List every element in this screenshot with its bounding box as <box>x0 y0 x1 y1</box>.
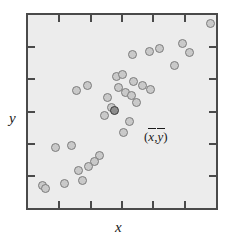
tick-bottom-4 <box>152 201 154 208</box>
plot-area: (x,y) <box>26 13 218 210</box>
centroid-y-bar: y <box>157 130 163 143</box>
data-point <box>83 81 92 90</box>
data-point <box>60 179 69 188</box>
data-point <box>185 48 194 57</box>
x-axis-label: x <box>115 219 122 236</box>
data-point <box>145 47 154 56</box>
data-point <box>41 184 50 193</box>
tick-bottom-1 <box>58 201 60 208</box>
centroid-point <box>110 106 119 115</box>
data-point <box>170 61 179 70</box>
y-axis-label: y <box>9 110 16 127</box>
tick-right-3 <box>209 111 216 113</box>
tick-right-5 <box>209 175 216 177</box>
data-point <box>78 176 87 185</box>
data-point <box>125 117 134 126</box>
data-point <box>103 93 112 102</box>
data-point <box>84 162 93 171</box>
data-point <box>100 111 109 120</box>
data-point <box>118 70 127 79</box>
data-point <box>206 19 215 28</box>
tick-top-4 <box>152 15 154 22</box>
data-point <box>74 166 83 175</box>
tick-left-5 <box>28 175 35 177</box>
tick-bottom-5 <box>184 201 186 208</box>
data-point <box>129 77 138 86</box>
data-point <box>72 86 81 95</box>
data-point <box>178 39 187 48</box>
tick-top-3 <box>121 15 123 22</box>
tick-left-1 <box>28 46 35 48</box>
tick-left-4 <box>28 143 35 145</box>
tick-top-1 <box>58 15 60 22</box>
tick-right-1 <box>209 46 216 48</box>
data-point <box>119 128 128 137</box>
tick-right-4 <box>209 143 216 145</box>
tick-left-3 <box>28 111 35 113</box>
tick-right-2 <box>209 78 216 80</box>
data-point <box>128 50 137 59</box>
tick-top-2 <box>90 15 92 22</box>
data-point <box>132 98 141 107</box>
data-point <box>155 44 164 53</box>
data-point <box>146 85 155 94</box>
tick-left-2 <box>28 78 35 80</box>
data-point <box>51 143 60 152</box>
data-point <box>67 141 76 150</box>
tick-bottom-3 <box>121 201 123 208</box>
tick-top-5 <box>184 15 186 22</box>
centroid-annotation: (x,y) <box>144 130 168 143</box>
tick-bottom-2 <box>90 201 92 208</box>
centroid-x-bar: x <box>148 130 154 143</box>
centroid-close-paren: ) <box>163 129 167 144</box>
scatter-plot-figure: (x,y) x y <box>0 0 236 243</box>
